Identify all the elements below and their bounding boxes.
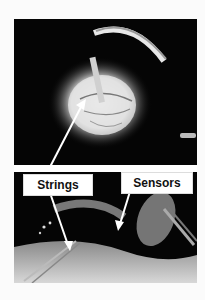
sensors-label: Sensors bbox=[121, 172, 193, 194]
figure-photo: Strings Sensors bbox=[14, 19, 197, 283]
photo-illustration bbox=[14, 19, 197, 283]
strings-label: Strings bbox=[23, 174, 93, 196]
